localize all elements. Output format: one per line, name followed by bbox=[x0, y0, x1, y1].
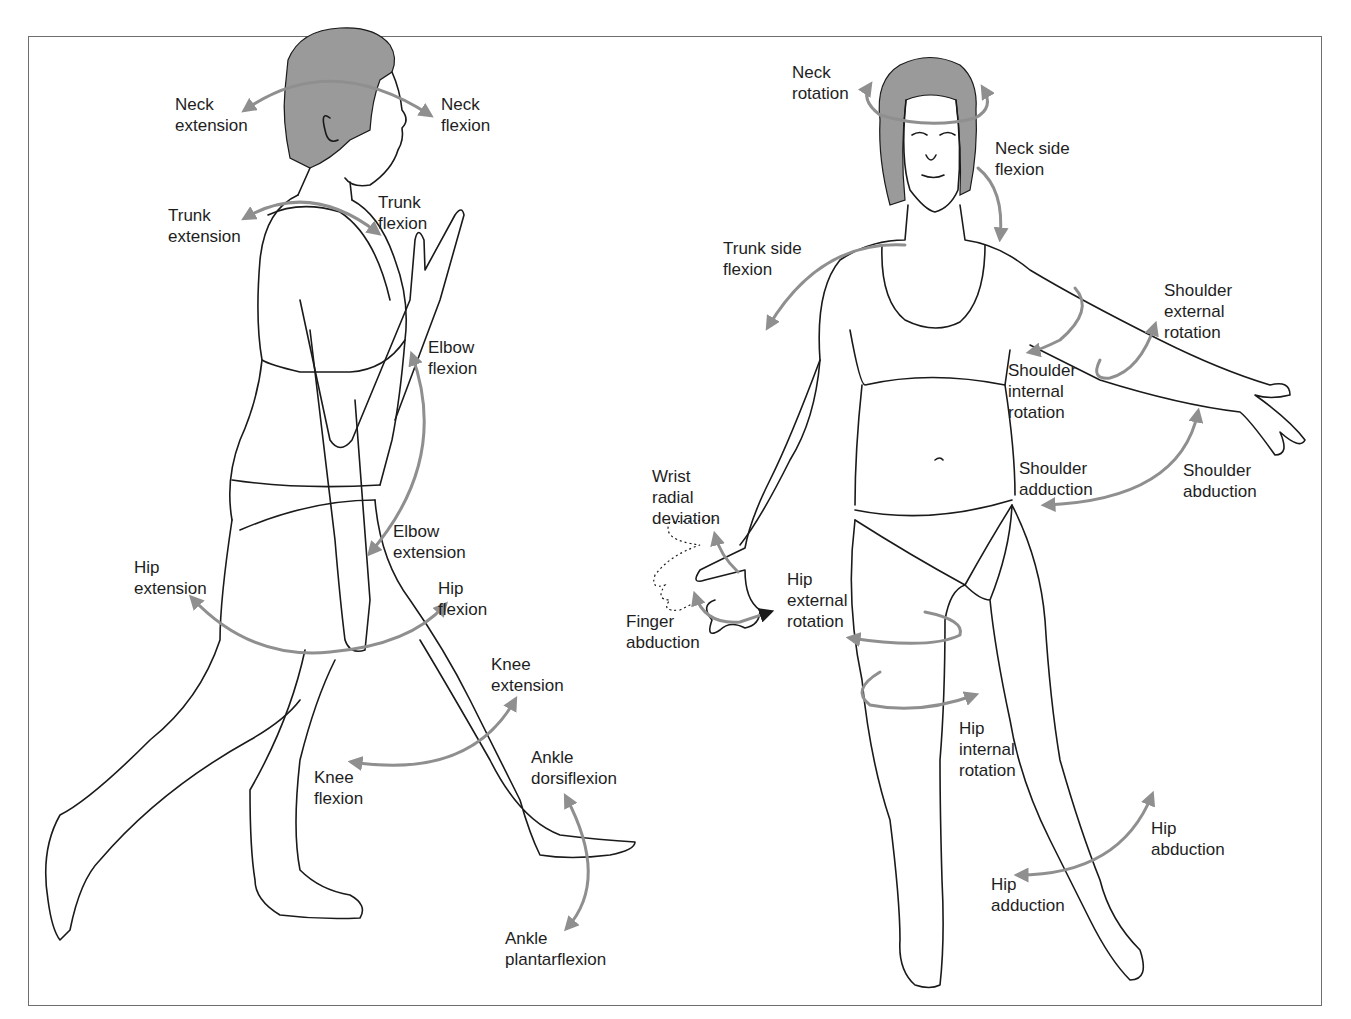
label-elbow-flexion: Elbowflexion bbox=[428, 337, 477, 379]
front-hair bbox=[879, 58, 976, 206]
label-neck-side-flexion: Neck sideflexion bbox=[995, 138, 1070, 180]
label-trunk-flexion: Trunkflexion bbox=[378, 192, 427, 234]
label-hip-adduction: Hipadduction bbox=[991, 874, 1065, 916]
hip-internal-rotation-arrow bbox=[862, 672, 975, 708]
shoulder-internal-rotation-arrow bbox=[1030, 288, 1082, 352]
hip-flexion-extension-arrow bbox=[192, 598, 445, 653]
label-elbow-extension: Elbowextension bbox=[393, 521, 466, 563]
label-ankle-dorsiflexion: Ankledorsiflexion bbox=[531, 747, 617, 789]
label-trunk-side-flexion: Trunk sideflexion bbox=[723, 238, 802, 280]
label-neck-extension: Neckextension bbox=[175, 94, 248, 136]
label-hip-abduction: Hipabduction bbox=[1151, 818, 1225, 860]
side-hair bbox=[284, 28, 394, 168]
label-shoulder-abduction: Shoulderabduction bbox=[1183, 460, 1257, 502]
label-hip-internal-rotation: Hipinternalrotation bbox=[959, 718, 1016, 781]
label-finger-abduction: Fingerabduction bbox=[626, 611, 700, 653]
ankle-dorsi-plantarflexion-arrow bbox=[566, 797, 588, 928]
label-shoulder-adduction: Shoulderadduction bbox=[1019, 458, 1093, 500]
label-shoulder-internal-rotation: Shoulderinternalrotation bbox=[1008, 360, 1076, 423]
label-ankle-plantarflexion: Ankleplantarflexion bbox=[505, 928, 606, 970]
label-trunk-extension: Trunkextension bbox=[168, 205, 241, 247]
hip-abduction-adduction-arrow bbox=[1018, 795, 1152, 875]
knee-flexion-extension-arrow bbox=[352, 700, 515, 765]
label-hip-flexion: Hipflexion bbox=[438, 578, 487, 620]
label-knee-flexion: Kneeflexion bbox=[314, 767, 363, 809]
hip-external-rotation-arrow bbox=[850, 612, 961, 643]
label-knee-extension: Kneeextension bbox=[491, 654, 564, 696]
label-hip-extension: Hipextension bbox=[134, 557, 207, 599]
label-shoulder-external-rotation: Shoulderexternalrotation bbox=[1164, 280, 1232, 343]
label-wrist-radial-deviation: Wristradialdeviation bbox=[652, 466, 720, 529]
label-neck-rotation: Neckrotation bbox=[792, 62, 849, 104]
wrist-deviation-ghost-hand bbox=[654, 520, 715, 610]
label-hip-external-rotation: Hipexternalrotation bbox=[787, 569, 847, 632]
label-neck-flexion: Neckflexion bbox=[441, 94, 490, 136]
